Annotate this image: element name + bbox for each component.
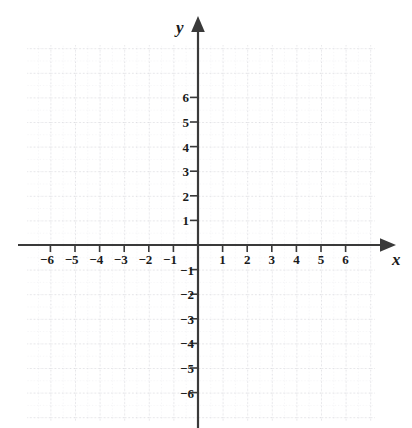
y-axis-tick-label-neg1: −1 xyxy=(180,263,194,276)
x-axis-tick-label-neg2: −2 xyxy=(138,253,152,266)
x-axis-tick-label-neg3: −3 xyxy=(114,253,128,266)
x-axis-tick-label-6: 6 xyxy=(342,253,349,266)
y-axis-tick-label-neg5: −5 xyxy=(180,362,194,375)
y-axis-tick-label-2: 2 xyxy=(183,189,190,202)
major-gridlines xyxy=(27,45,375,421)
y-axis-tick-label-4: 4 xyxy=(183,140,190,153)
y-axis-tick-label-neg3: −3 xyxy=(180,312,194,325)
x-axis-tick-label-neg4: −4 xyxy=(89,253,103,266)
y-axis-tick-label-1: 1 xyxy=(183,214,190,227)
x-axis-tick-label-1: 1 xyxy=(219,253,226,266)
y-axis-tick-label-5: 5 xyxy=(183,116,190,129)
y-axis-tick-label-3: 3 xyxy=(183,165,190,178)
x-axis-tick-label-neg1: −1 xyxy=(163,253,177,266)
y-axis-label: y xyxy=(176,19,184,36)
coordinate-plane-figure: 6 5 4 3 2 1 −1 −2 −3 −4 −5 −6 −6 −5 −4 −… xyxy=(0,0,412,428)
x-axis-tick-label-5: 5 xyxy=(318,253,325,266)
x-axis-tick-label-neg5: −5 xyxy=(65,253,79,266)
x-axis-tick-label-4: 4 xyxy=(293,253,300,266)
x-axis-tick-label-3: 3 xyxy=(269,253,276,266)
y-axis-tick-label-neg6: −6 xyxy=(180,386,194,399)
y-axis-tick-label-neg2: −2 xyxy=(180,288,194,301)
x-axis-label: x xyxy=(392,251,401,268)
y-axis-tick-label-neg4: −4 xyxy=(180,337,194,350)
x-axis-tick-label-neg6: −6 xyxy=(40,253,54,266)
graph-canvas xyxy=(0,0,412,428)
x-axis-tick-label-2: 2 xyxy=(244,253,251,266)
grid-group xyxy=(27,45,375,421)
y-axis-tick-label-6: 6 xyxy=(183,91,190,104)
